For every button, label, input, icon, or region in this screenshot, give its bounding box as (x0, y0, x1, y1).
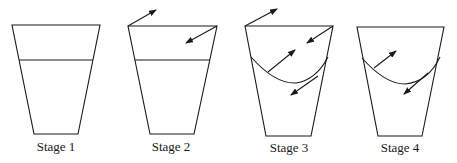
arrow-icon (374, 51, 396, 68)
stage-label: Stage 1 (37, 139, 76, 154)
stage-4: Stage 4 (357, 27, 444, 155)
stage-label: Stage 3 (270, 140, 309, 155)
liquid-surface-curved (251, 57, 328, 83)
stage-label: Stage 2 (152, 139, 191, 154)
stages-diagram: Stage 1 Stage 2 Stage 3 Stage 4 (0, 0, 457, 163)
cup-outline (128, 26, 217, 134)
arrow-icon (186, 26, 217, 43)
stage-1: Stage 1 (12, 25, 100, 154)
arrow-icon (245, 9, 277, 26)
stage-3: Stage 3 (245, 9, 333, 155)
arrow-icon (128, 10, 156, 26)
stage-2: Stage 2 (128, 10, 217, 154)
arrow-icon (268, 50, 295, 72)
cup-outline (357, 27, 444, 136)
cup-outline (245, 26, 333, 136)
stage-label: Stage 4 (381, 140, 420, 155)
arrow-icon (307, 26, 333, 43)
arrow-icon (291, 76, 318, 95)
liquid-surface-curved (362, 57, 440, 84)
cup-outline (12, 25, 100, 134)
